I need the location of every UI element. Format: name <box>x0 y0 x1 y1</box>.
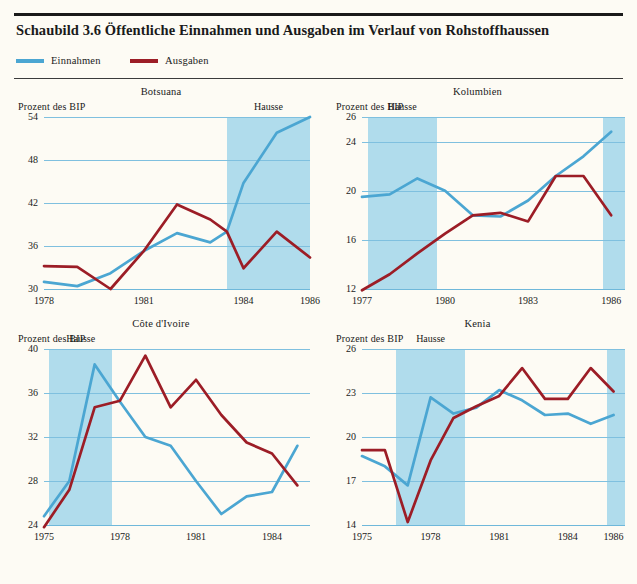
header-divider-rule <box>14 78 623 79</box>
chart-title: Botsuana <box>4 86 318 97</box>
y-axis-tick-label: 20 <box>346 186 356 196</box>
x-axis-tick-label: 1978 <box>421 532 441 542</box>
plot-area: Hausse30364248541978198119841986 <box>44 117 310 289</box>
chart-title: Kolumbien <box>322 86 633 97</box>
y-axis-tick-label: 24 <box>346 137 356 147</box>
y-axis-tick-label: 40 <box>28 344 38 354</box>
y-gridline <box>362 289 625 290</box>
x-axis-tick-label: 1984 <box>234 296 254 306</box>
y-axis-tick-label: 48 <box>28 155 38 165</box>
x-axis-tick-label: 1981 <box>489 532 509 542</box>
y-axis-tick-label: 12 <box>346 284 356 294</box>
series-line-ausgaben <box>44 204 310 289</box>
x-axis-tick-label: 1981 <box>186 532 206 542</box>
series-lines <box>44 349 310 525</box>
series-line-einnahmen <box>44 364 297 516</box>
series-line-ausgaben <box>362 368 614 522</box>
y-axis-tick-label: 36 <box>28 388 38 398</box>
x-axis-tick-label: 1978 <box>110 532 130 542</box>
x-axis-tick-label: 1984 <box>558 532 578 542</box>
y-axis-tick-label: 54 <box>28 112 38 122</box>
chart-title: Kenia <box>322 318 633 329</box>
series-line-ausgaben <box>362 176 611 290</box>
legend-swatch-line-icon-einnahmen <box>16 59 44 63</box>
x-axis-tick-label: 1975 <box>34 532 54 542</box>
series-lines <box>362 117 625 289</box>
y-axis-tick-label: 17 <box>346 476 356 486</box>
plot-area: Hausse141720232619751978198119841986 <box>362 349 625 525</box>
x-axis-tick-label: 1986 <box>604 532 624 542</box>
legend-label-einnahmen: Einnahmen <box>51 55 101 66</box>
series-line-einnahmen <box>362 132 611 217</box>
series-lines <box>362 349 625 525</box>
plot-area: Hausse12162024261977198019831986 <box>362 117 625 289</box>
boom-period-label: Hausse <box>254 102 283 112</box>
y-axis-tick-label: 14 <box>346 520 356 530</box>
legend-item-einnahmen: Einnahmen <box>16 55 101 66</box>
x-axis-tick-label: 1984 <box>262 532 282 542</box>
y-axis-tick-label: 42 <box>28 198 38 208</box>
x-axis-tick-label: 1975 <box>352 532 372 542</box>
y-axis-tick-label: 24 <box>28 520 38 530</box>
series-lines <box>44 117 310 289</box>
chart-panel-c-te-d-ivoire: Côte d'IvoireProzent des BIPHausse242832… <box>4 318 318 568</box>
plot-area: Hausse24283236401975197819811984 <box>44 349 310 525</box>
y-gridline <box>362 525 625 526</box>
boom-period-label: Hausse <box>416 334 445 344</box>
x-axis-tick-label: 1980 <box>435 296 455 306</box>
x-axis-tick-label: 1978 <box>34 296 54 306</box>
series-line-einnahmen <box>362 390 614 485</box>
x-axis-tick-label: 1981 <box>134 296 154 306</box>
x-axis-tick-label: 1986 <box>601 296 621 306</box>
boom-period-label: Hausse <box>388 102 417 112</box>
chart-panel-botsuana: BotsuanaProzent des BIPHausse30364248541… <box>4 86 318 326</box>
y-axis-tick-label: 16 <box>346 235 356 245</box>
boom-period-label: Hausse <box>66 334 95 344</box>
x-axis-tick-label: 1983 <box>518 296 538 306</box>
y-axis-tick-label: 26 <box>346 344 356 354</box>
y-axis-tick-label: 30 <box>28 284 38 294</box>
legend-label-ausgaben: Ausgaben <box>165 55 209 66</box>
legend-item-ausgaben: Ausgaben <box>130 55 209 66</box>
y-axis-tick-label: 20 <box>346 432 356 442</box>
chart-grid: BotsuanaProzent des BIPHausse30364248541… <box>0 86 637 584</box>
figure-page: Schaubild 3.6 Öffentliche Einnahmen und … <box>0 0 637 584</box>
x-axis-tick-label: 1986 <box>300 296 320 306</box>
chart-panel-kolumbien: KolumbienProzent des BIPHausse1216202426… <box>322 86 633 326</box>
y-axis-tick-label: 32 <box>28 432 38 442</box>
series-line-einnahmen <box>44 117 310 286</box>
y-axis-tick-label: 36 <box>28 241 38 251</box>
y-axis-tick-label: 26 <box>346 112 356 122</box>
chart-title: Côte d'Ivoire <box>4 318 318 329</box>
y-axis-tick-label: 28 <box>28 476 38 486</box>
y-gridline <box>44 289 310 290</box>
series-line-ausgaben <box>44 356 297 528</box>
y-gridline <box>44 525 310 526</box>
x-axis-tick-label: 1977 <box>352 296 372 306</box>
figure-title: Schaubild 3.6 Öffentliche Einnahmen und … <box>16 22 549 39</box>
top-rule <box>14 13 623 16</box>
chart-panel-kenia: KeniaProzent des BIPHausse14172023261975… <box>322 318 633 568</box>
legend-swatch-line-icon-ausgaben <box>130 59 158 63</box>
y-axis-tick-label: 23 <box>346 388 356 398</box>
